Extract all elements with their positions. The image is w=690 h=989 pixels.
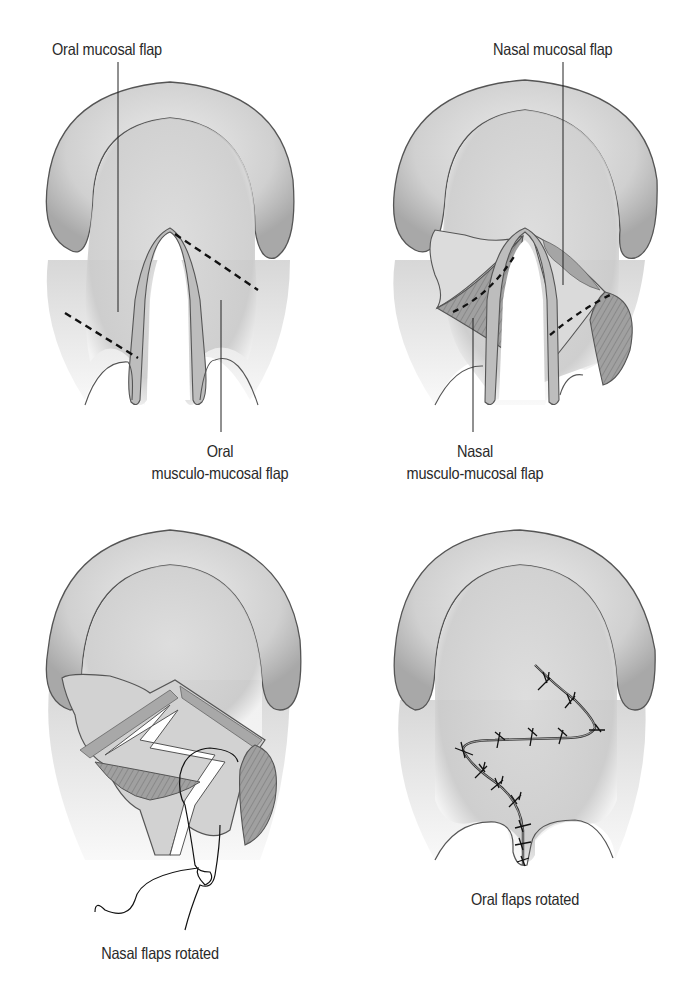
- palate-illustration-b: [345, 0, 690, 500]
- panel-a-oral-flap-incisions: Oral mucosal flap Oral musculo-mucosal f…: [0, 0, 345, 500]
- palate-illustration-c: [0, 500, 345, 989]
- label-nasal-musculo-mucosal-flap: musculo-mucosal flap: [387, 462, 563, 484]
- muscle-flap-right: [240, 745, 277, 845]
- label-oral-musculo-mucosal-flap: musculo-mucosal flap: [132, 462, 308, 484]
- palate-illustration-d: [345, 500, 690, 989]
- panel-c-nasal-flaps-rotated: Nasal flaps rotated: [0, 500, 345, 989]
- label-nasal-mucosal-flap: Nasal mucosal flap: [493, 38, 613, 60]
- label-oral-flaps-rotated: Oral flaps rotated: [446, 888, 604, 910]
- panel-b-nasal-flaps: Nasal mucosal flap Nasal musculo-mucosal…: [345, 0, 690, 500]
- panel-d-oral-flaps-rotated: Oral flaps rotated: [345, 500, 690, 989]
- palate-illustration-a: [0, 0, 345, 500]
- label-oral: Oral: [158, 440, 281, 462]
- label-oral-mucosal-flap: Oral mucosal flap: [52, 38, 162, 60]
- muscle-flap-right: [590, 292, 632, 385]
- label-nasal: Nasal: [413, 440, 536, 462]
- label-nasal-flaps-rotated: Nasal flaps rotated: [81, 942, 239, 964]
